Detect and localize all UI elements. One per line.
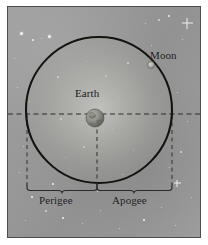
earth-label: Earth	[75, 87, 99, 99]
moon-orbit-figure: Moon Earth Perigee Apogee	[0, 0, 208, 245]
perigee-brace	[27, 183, 97, 194]
diagram-vector-layer	[0, 0, 208, 245]
moon-label: Moon	[150, 49, 177, 61]
earth-body	[86, 109, 104, 127]
moon-body	[148, 62, 155, 69]
perigee-label: Perigee	[39, 194, 73, 206]
apogee-label: Apogee	[112, 194, 147, 206]
apogee-brace	[97, 183, 172, 194]
